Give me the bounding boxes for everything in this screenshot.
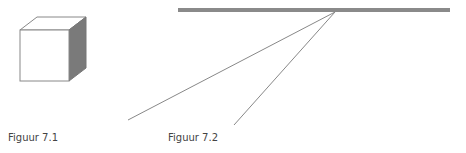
cube-figure bbox=[20, 17, 86, 81]
figure-caption-7-2: Figuur 7.2 bbox=[168, 132, 218, 143]
figure-caption-7-1: Figuur 7.1 bbox=[8, 132, 58, 143]
bar-figure bbox=[128, 8, 450, 125]
figures-canvas bbox=[0, 0, 466, 153]
